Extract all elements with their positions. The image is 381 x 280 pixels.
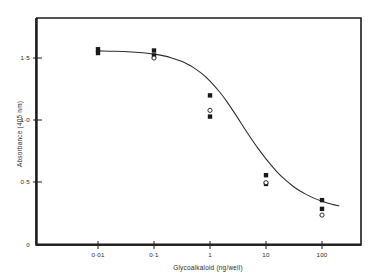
- figure-container: 1·5 1·0 0·5 0 0·01 0·1 1 10 100 Glycoalk…: [0, 0, 381, 280]
- frame-border: [36, 18, 361, 245]
- dose-response-chart: 1·5 1·0 0·5 0 0·01 0·1 1 10 100 Glycoalk…: [0, 0, 381, 280]
- data-point-square: [152, 48, 156, 52]
- x-tick-label-1: 1: [208, 251, 212, 258]
- data-point-square: [320, 198, 324, 202]
- x-tick-label-10: 10: [262, 251, 270, 258]
- y-axis-ticks: 1·5 1·0 0·5 0: [20, 54, 42, 248]
- data-point-square: [264, 173, 268, 177]
- y-axis-title: Absorbance (405 nm): [16, 101, 24, 167]
- data-point-circle: [152, 56, 156, 60]
- data-point-markers: [96, 47, 324, 217]
- data-point-square: [96, 51, 100, 55]
- x-axis-title: Glycoalkaloid (ng/well): [173, 264, 243, 272]
- data-point-circle: [264, 181, 268, 185]
- data-point-square: [208, 93, 212, 97]
- fitted-sigmoid-curve: [98, 51, 339, 206]
- data-point-circle: [208, 108, 212, 112]
- x-tick-label-0p1: 0·1: [149, 251, 159, 258]
- x-tick-label-100: 100: [317, 251, 328, 258]
- x-tick-label-0p01: 0·01: [91, 251, 105, 258]
- y-tick-label-1p5: 1·5: [20, 54, 30, 61]
- data-point-square: [320, 207, 324, 211]
- y-tick-label-0: 0: [26, 241, 30, 248]
- data-point-circle: [320, 213, 324, 217]
- data-point-square: [208, 114, 212, 118]
- y-tick-label-0p5: 0·5: [20, 178, 30, 185]
- plot-frame: [36, 18, 361, 245]
